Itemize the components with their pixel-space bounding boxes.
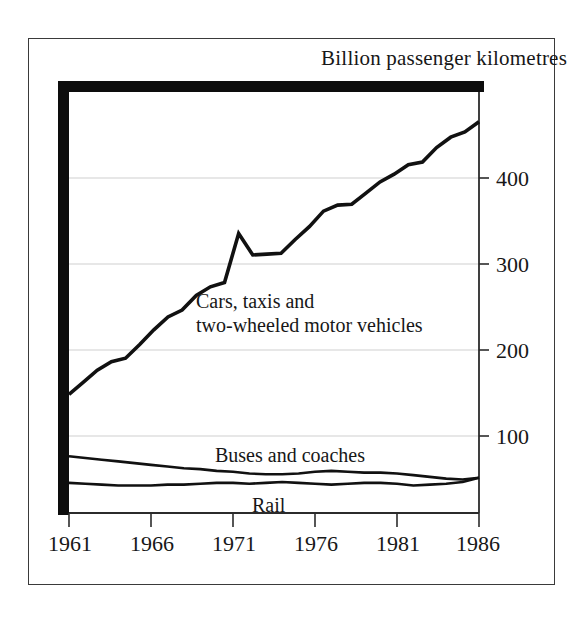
x-tick-label-1971: 1971	[212, 531, 256, 556]
y-tick-label-400: 400	[496, 166, 529, 191]
y-tick-label-300: 300	[496, 252, 529, 277]
x-tick-label-1986: 1986	[456, 531, 500, 556]
y-axis-ticks	[479, 178, 489, 436]
series-label-buses: Buses and coaches	[215, 444, 365, 466]
series-label-rail: Rail	[252, 494, 286, 516]
x-tick-label-1961: 1961	[48, 531, 92, 556]
x-tick-label-1966: 1966	[130, 531, 174, 556]
y-tick-label-200: 200	[496, 338, 529, 363]
line-chart-plot: 400 300 200 100 1961 1966 1971 1976 1981…	[0, 0, 579, 618]
x-tick-label-1981: 1981	[376, 531, 420, 556]
series-label-cars-line1: Cars, taxis and	[196, 290, 314, 312]
x-tick-label-1976: 1976	[294, 531, 338, 556]
series-label-cars-line2: two-wheeled motor vehicles	[196, 314, 423, 336]
y-tick-label-100: 100	[496, 424, 529, 449]
plot-shadow-left	[58, 81, 69, 515]
figure-root: Billion passenger kilometres	[0, 0, 579, 618]
plot-shadow-top	[58, 81, 484, 92]
